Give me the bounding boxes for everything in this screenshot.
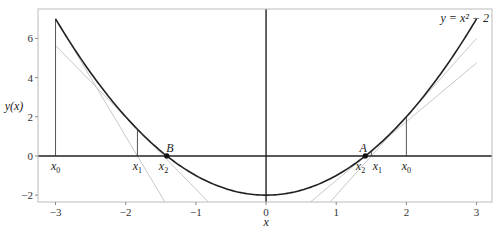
x-tick-label: 3 [474, 206, 480, 218]
newton-method-chart: BA −3−2−10123−20246 x0x1x2x0x1x2 y = x² … [0, 0, 495, 231]
axes-frame [38, 9, 492, 202]
y-tick-label: 6 [28, 32, 34, 44]
iterate-label: x1 [372, 159, 382, 175]
iterate-vertical-segments [56, 19, 407, 156]
x-tick-label: 2 [404, 206, 410, 218]
axis-ticks: −3−2−10123−20246 [21, 32, 480, 218]
y-axis-label: y(x) [4, 99, 24, 113]
iterate-label: x2 [158, 159, 168, 175]
root-label: A [359, 141, 368, 155]
y-tick-label: 0 [28, 150, 34, 162]
iterate-label: x2 [355, 159, 365, 175]
y-tick-label: −2 [21, 189, 33, 201]
iterate-label: x0 [50, 159, 60, 175]
y-tick-label: 4 [28, 72, 34, 84]
iterate-label: x0 [401, 159, 411, 175]
x-axis-label: x [262, 215, 269, 229]
iterate-labels: x0x1x2x0x1x2 [50, 159, 411, 175]
x-tick-label: −2 [120, 206, 132, 218]
root-label: B [166, 141, 174, 155]
zero-axes [38, 9, 492, 202]
y-tick-label: 2 [28, 111, 34, 123]
x-tick-label: −3 [50, 206, 62, 218]
x-tick-label: −1 [190, 206, 202, 218]
x-tick-label: 1 [333, 206, 339, 218]
curve-label: y = x² − 2 [440, 11, 489, 25]
